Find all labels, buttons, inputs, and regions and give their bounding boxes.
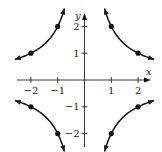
curve-branch [15, 9, 65, 60]
curve-arrow [15, 100, 21, 105]
curve-arrow [60, 145, 65, 151]
axes: x y [17, 10, 152, 147]
data-point [28, 104, 33, 109]
x-tick-label: −2 [24, 85, 39, 96]
x-tick-label: 2 [135, 85, 141, 96]
curve-arrow [60, 9, 65, 15]
y-tick-label: −1 [65, 101, 80, 112]
data-point [55, 131, 60, 136]
curve-arrow [104, 9, 109, 15]
y-tick-label: −2 [65, 128, 80, 139]
y-axis-label: y [74, 10, 81, 21]
y-tick-label: 1 [73, 48, 79, 59]
data-point [28, 51, 33, 56]
curve-arrow [148, 100, 154, 105]
data-point [136, 104, 141, 109]
curve-arrow [15, 55, 21, 60]
curve-arrow [148, 55, 154, 60]
curve-branch [105, 101, 155, 152]
x-axis-label: x [146, 66, 152, 77]
x-axis-arrow [144, 78, 151, 83]
curve-branch [15, 101, 65, 152]
x-tick-label: −1 [50, 85, 65, 96]
curve-arrow [104, 145, 109, 151]
data-point [109, 131, 114, 136]
data-point [136, 51, 141, 56]
data-point [109, 24, 114, 29]
curve-branch [105, 9, 155, 60]
function-graph: x y −2−112−2−112 [0, 0, 162, 152]
y-axis-arrow [82, 13, 87, 20]
data-point [55, 24, 60, 29]
x-tick-label: 1 [108, 85, 114, 96]
y-tick-label: 2 [73, 21, 79, 32]
